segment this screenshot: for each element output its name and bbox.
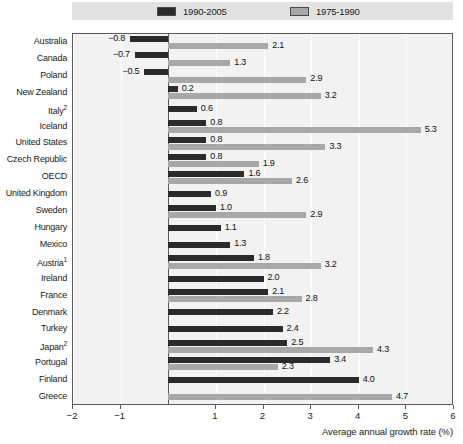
bar-1975-1990 — [168, 394, 392, 400]
bar-1990-2005 — [168, 86, 178, 92]
category-label: Canada — [0, 53, 67, 63]
bar-1990-2005 — [168, 225, 220, 231]
bar-row: 1.62.6 — [73, 169, 452, 186]
x-tick-label: 3 — [307, 410, 312, 421]
bar-row: 0.85.3 — [73, 119, 452, 136]
bar-value-1975-1990: 4.7 — [396, 391, 408, 401]
bar-value-1975-1990: 1.3 — [234, 57, 246, 67]
bar-1990-2005 — [168, 340, 287, 346]
bar-1975-1990 — [168, 93, 320, 99]
bar-1975-1990 — [168, 178, 292, 184]
bar-1990-2005 — [168, 154, 206, 160]
bar-value-1975-1990: 2.6 — [296, 175, 308, 185]
bar-1975-1990 — [168, 77, 306, 83]
bar-value-1975-1990: 3.3 — [329, 141, 341, 151]
category-label: Mexico — [0, 239, 67, 249]
category-label: Japan2 — [0, 340, 67, 352]
bar-1990-2005 — [168, 309, 273, 315]
bar-1990-2005 — [168, 137, 206, 143]
bar-value-1975-1990: 3.2 — [325, 90, 337, 100]
x-tick-label: 6 — [450, 410, 455, 421]
bar-value-1975-1990: 2.8 — [306, 293, 318, 303]
category-label: Italy2 — [0, 104, 67, 116]
bar-value-1990-2005: 1.0 — [220, 202, 232, 212]
bar-value-1975-1990: 4.3 — [377, 344, 389, 354]
bar-row: 1.1 — [73, 220, 452, 237]
legend-entry-1975-1990: 1975-1990 — [290, 6, 360, 17]
legend-label-1990-2005: 1990-2005 — [183, 6, 227, 17]
bar-1990-2005 — [168, 255, 254, 261]
x-tick-label: −2 — [67, 410, 78, 421]
legend-swatch-light — [290, 7, 309, 16]
bar-row: 0.83.3 — [73, 135, 452, 152]
bar-1990-2005 — [168, 357, 330, 363]
category-label: Poland — [0, 70, 67, 80]
bar-row: 0.6 — [73, 102, 452, 119]
bar-value-1990-2005: 0.8 — [210, 134, 222, 144]
bar-value-1990-2005: 1.8 — [258, 252, 270, 262]
category-label: Iceland — [0, 121, 67, 131]
category-label: Hungary — [0, 222, 67, 232]
category-axis-labels: AustraliaCanadaPolandNew ZealandItaly2Ic… — [0, 33, 67, 405]
plot-area: −0.82.1−0.71.3−0.52.90.23.20.60.85.30.83… — [72, 33, 453, 405]
category-label: Sweden — [0, 205, 67, 215]
category-label: Denmark — [0, 307, 67, 317]
bar-value-1990-2005: 2.4 — [287, 323, 299, 333]
legend-swatch-dark — [157, 7, 176, 16]
legend-label-1975-1990: 1975-1990 — [316, 6, 360, 17]
category-label: Portugal — [0, 357, 67, 367]
bar-value-1990-2005: 3.4 — [334, 354, 346, 364]
bar-1975-1990 — [168, 296, 301, 302]
bar-value-1990-2005: 0.2 — [182, 83, 194, 93]
x-tick-label: 2 — [260, 410, 265, 421]
bar-value-1990-2005: 2.5 — [291, 337, 303, 347]
bar-value-1990-2005: 2.0 — [268, 272, 280, 282]
bar-1975-1990 — [168, 144, 325, 150]
x-tick-mark — [358, 405, 359, 409]
bar-value-1990-2005: 0.8 — [210, 151, 222, 161]
bar-value-1975-1990: 2.9 — [310, 209, 322, 219]
bar-row: −0.52.9 — [73, 68, 452, 85]
x-tick-mark — [310, 405, 311, 409]
x-tick-mark — [215, 405, 216, 409]
bar-value-1990-2005: 1.6 — [248, 168, 260, 178]
category-label: Greece — [0, 391, 67, 401]
bar-row: 1.83.2 — [73, 254, 452, 271]
bar-1975-1990 — [168, 212, 306, 218]
x-tick-mark — [120, 405, 121, 409]
bar-1975-1990 — [168, 161, 258, 167]
bar-value-1975-1990: 1.9 — [263, 158, 275, 168]
bar-row: 1.02.9 — [73, 203, 452, 220]
bar-rows: −0.82.1−0.71.3−0.52.90.23.20.60.85.30.83… — [73, 34, 452, 404]
bar-1990-2005 — [130, 36, 168, 42]
bar-value-1990-2005: −0.7 — [113, 49, 130, 59]
bar-1990-2005 — [135, 52, 168, 58]
bar-row: 2.54.3 — [73, 338, 452, 355]
bar-row: 2.4 — [73, 321, 452, 338]
bar-value-1975-1990: 2.9 — [310, 73, 322, 83]
bar-value-1990-2005: 2.2 — [277, 306, 289, 316]
bar-value-1990-2005: −0.5 — [122, 66, 139, 76]
bar-value-1975-1990: 2.1 — [272, 40, 284, 50]
bar-row: 0.9 — [73, 186, 452, 203]
bar-1975-1990 — [168, 263, 320, 269]
bar-value-1990-2005: 1.3 — [234, 238, 246, 248]
bar-row: 0.23.2 — [73, 85, 452, 102]
bar-value-1990-2005: 2.1 — [272, 286, 284, 296]
category-label: France — [0, 290, 67, 300]
x-axis-title: Average annual growth rate (%) — [322, 426, 453, 437]
x-tick-mark — [72, 405, 73, 409]
bar-value-1990-2005: 0.8 — [210, 117, 222, 127]
bar-1990-2005 — [144, 69, 168, 75]
category-label: United Kingdom — [0, 188, 67, 198]
bar-value-1975-1990: 3.2 — [325, 259, 337, 269]
bar-value-1990-2005: −0.8 — [108, 33, 125, 43]
bar-row: −0.71.3 — [73, 51, 452, 68]
category-label: OECD — [0, 171, 67, 181]
category-label: Austria1 — [0, 256, 67, 268]
x-tick-label: −1 — [114, 410, 125, 421]
bar-1990-2005 — [168, 120, 206, 126]
x-tick-mark — [405, 405, 406, 409]
bar-value-1990-2005: 0.6 — [201, 103, 213, 113]
bar-1990-2005 — [168, 191, 211, 197]
